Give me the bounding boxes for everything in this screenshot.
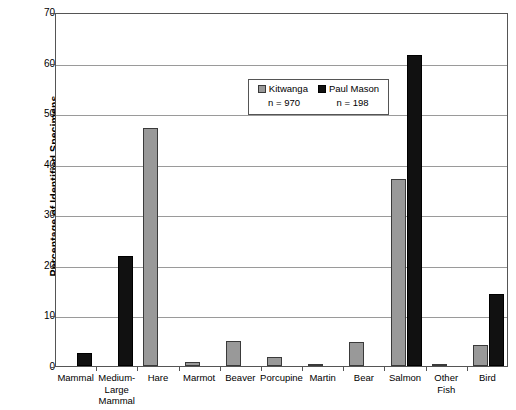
- gridline: [56, 115, 507, 116]
- y-tick-label: 0: [9, 362, 55, 372]
- bar-paul-mason-medium-large-mammal: [118, 256, 133, 366]
- bar-kitwanga-marmot: [185, 362, 200, 366]
- bar-kitwanga-other-fish: [432, 364, 447, 366]
- legend-counts-row: n = 970 n = 198: [249, 98, 388, 108]
- chart-legend: Kitwanga Paul Mason n = 970 n = 198: [248, 79, 389, 115]
- y-tick-label: 70: [9, 8, 55, 18]
- bar-chart: Percentage of Identified Specimens 01020…: [0, 0, 516, 410]
- legend-label-kitwanga: Kitwanga: [269, 84, 308, 94]
- y-tick-label: 50: [9, 109, 55, 119]
- bar-kitwanga-beaver: [226, 341, 241, 366]
- x-tick-mark: [426, 367, 427, 371]
- x-tick-mark: [384, 367, 385, 371]
- x-tick-mark: [137, 367, 138, 371]
- x-tick-mark: [302, 367, 303, 371]
- x-tick-mark: [261, 367, 262, 371]
- y-tick-label: 40: [9, 160, 55, 170]
- bar-kitwanga-hare: [143, 128, 158, 366]
- x-tick-mark: [96, 367, 97, 371]
- gridline: [56, 65, 507, 66]
- legend-series-row: Kitwanga Paul Mason: [249, 84, 388, 94]
- bar-kitwanga-martin: [308, 364, 323, 366]
- y-tick-label: 30: [9, 210, 55, 220]
- y-tick-label: 10: [9, 311, 55, 321]
- gridline: [56, 216, 507, 217]
- bar-paul-mason-bird: [489, 294, 504, 366]
- legend-swatch-kitwanga: [258, 85, 266, 93]
- x-tick-mark: [179, 367, 180, 371]
- y-tick-label: 60: [9, 59, 55, 69]
- plot-area: Kitwanga Paul Mason n = 970 n = 198: [55, 13, 508, 367]
- gridline: [56, 166, 507, 167]
- legend-swatch-paul-mason: [318, 85, 326, 93]
- y-axis-ticks: 010203040506070: [0, 13, 55, 367]
- x-tick-mark: [343, 367, 344, 371]
- x-label-bird: Bird: [461, 372, 514, 384]
- legend-count-paul-mason: n = 198: [318, 98, 387, 108]
- legend-count-kitwanga: n = 970: [250, 98, 318, 108]
- x-axis-labels: MammalMedium-LargeMammalHareMarmotBeaver…: [55, 372, 508, 410]
- bar-kitwanga-bear: [349, 342, 364, 366]
- x-tick-mark: [220, 367, 221, 371]
- bar-kitwanga-salmon: [391, 179, 406, 366]
- bar-kitwanga-porcupine: [267, 357, 282, 366]
- legend-entry-kitwanga: Kitwanga: [258, 84, 308, 94]
- bar-kitwanga-bird: [473, 345, 488, 366]
- bar-paul-mason-mammal: [77, 353, 92, 366]
- bar-paul-mason-salmon: [407, 55, 422, 366]
- y-tick-label: 20: [9, 261, 55, 271]
- legend-label-paul-mason: Paul Mason: [329, 84, 379, 94]
- x-tick-mark: [467, 367, 468, 371]
- legend-entry-paul-mason: Paul Mason: [318, 84, 379, 94]
